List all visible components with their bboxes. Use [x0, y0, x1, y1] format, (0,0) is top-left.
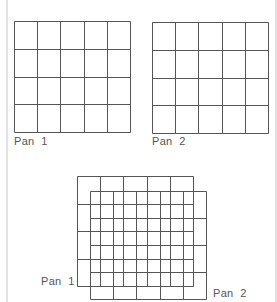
overlay-pan1-label: Pan 1	[41, 275, 75, 287]
pan1-grid	[15, 22, 131, 133]
overlay-pan2-grid	[91, 192, 207, 300]
overlay-pan1-grid	[78, 177, 194, 287]
pan2-grid	[153, 23, 269, 134]
overlay-pan2-label: Pan 2	[213, 287, 247, 299]
pan1-label: Pan 1	[14, 135, 48, 147]
grid-diagram	[0, 0, 277, 302]
pan2-label: Pan 2	[152, 135, 186, 147]
